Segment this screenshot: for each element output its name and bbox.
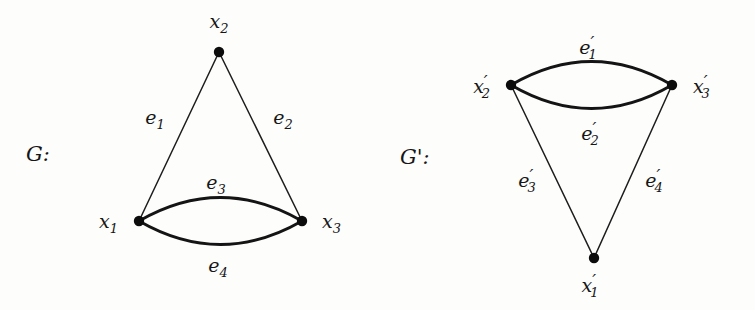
graph-G: G: x1 x2 x3 e1: [26, 10, 341, 280]
graph-G-name: G:: [26, 142, 50, 166]
vertex-label-x3: x3: [322, 210, 341, 236]
vertex-label-x2: x2: [210, 10, 229, 36]
graph-isomorphism-figure: G: x1 x2 x3 e1: [0, 0, 755, 310]
edge-e2: [219, 52, 302, 221]
graph-G-prime: G': x′2 x′3 x′1 e′1: [400, 32, 710, 300]
edge-e1: [139, 52, 219, 221]
graph-G-prime-name: G':: [400, 145, 430, 169]
vertex-x1: [134, 216, 144, 226]
edge-e4: [139, 221, 302, 245]
vertex-label-x1: x1: [99, 210, 118, 236]
vertex-x2: [214, 47, 224, 57]
vertex-x3: [297, 216, 307, 226]
edge-label-e4-prime: e′4: [645, 165, 662, 195]
edge-label-e1: e1: [145, 106, 165, 132]
edge-e2-prime: [511, 85, 672, 109]
vertex-label-x3-prime: x′3: [693, 71, 710, 101]
edge-label-e4: e4: [208, 254, 228, 280]
vertex-x2-prime: [506, 80, 516, 90]
edge-e1-prime: [511, 62, 672, 86]
edge-label-e1-prime: e′1: [579, 32, 596, 62]
edge-label-e3-prime: e′3: [518, 165, 535, 195]
edge-e3: [139, 198, 302, 222]
edge-label-e3: e3: [206, 171, 226, 197]
edge-label-e2-prime: e′2: [581, 118, 598, 148]
edge-label-e2: e2: [273, 106, 293, 132]
vertex-x3-prime: [667, 80, 677, 90]
vertex-x1-prime: [589, 253, 599, 263]
vertex-label-x1-prime: x′1: [582, 270, 599, 300]
diagram-canvas: G: x1 x2 x3 e1: [0, 0, 755, 310]
vertex-label-x2-prime: x′2: [473, 71, 490, 101]
